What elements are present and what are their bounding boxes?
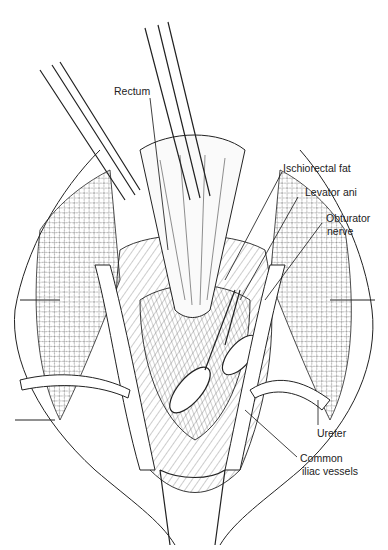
label-common-iliac-line2: iliac vessels <box>302 465 358 477</box>
label-levator-ani: Levator ani <box>305 186 357 198</box>
label-common-iliac-line1: Common <box>300 452 343 464</box>
label-ureter: Ureter <box>317 427 346 439</box>
label-rectum: Rectum <box>114 85 150 97</box>
label-ischiorectal-fat: Ischiorectal fat <box>283 162 351 174</box>
label-obturator-nerve-line2: nerve <box>327 225 353 237</box>
label-obturator-nerve-line1: Obturator <box>326 212 370 224</box>
